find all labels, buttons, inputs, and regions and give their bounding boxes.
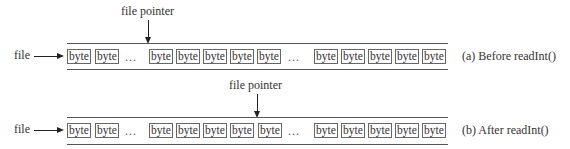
byte-cell: byte: [203, 123, 227, 138]
byte-cell: byte: [230, 123, 254, 138]
ellipsis: ...: [288, 50, 300, 65]
ellipsis: ...: [288, 124, 300, 139]
file-pointer-arrow-shaft: [257, 94, 258, 111]
arrow-right-icon: [57, 127, 64, 133]
byte-cell: byte: [149, 123, 173, 138]
arrow-right-icon: [57, 53, 64, 59]
byte-cell: byte: [368, 123, 392, 138]
byte-cell: byte: [314, 123, 338, 138]
byte-cell: byte: [341, 49, 365, 64]
caption-before-readint: (a) Before readInt(): [462, 49, 556, 64]
byte-cell: byte: [67, 123, 91, 138]
file-label: file: [14, 48, 30, 63]
file-arrow-shaft: [34, 130, 57, 131]
byte-cell: byte: [95, 123, 119, 138]
byte-cell: byte: [341, 123, 365, 138]
file-arrow-shaft: [34, 56, 57, 57]
ellipsis: ...: [125, 50, 137, 65]
byte-cell: byte: [176, 123, 200, 138]
file-pointer-label: file pointer: [121, 4, 174, 19]
byte-cell: byte: [422, 123, 446, 138]
stream-bottom-border: [67, 69, 448, 70]
byte-cell: byte: [422, 49, 446, 64]
byte-cell: byte: [95, 49, 119, 64]
byte-cell: byte: [176, 49, 200, 64]
stream-top-border: [67, 43, 448, 44]
byte-cell: byte: [67, 49, 91, 64]
byte-cell: byte: [230, 49, 254, 64]
byte-cell: byte: [395, 49, 419, 64]
stream-bottom-border: [67, 144, 448, 145]
file-label: file: [14, 122, 30, 137]
file-pointer-arrow-shaft: [148, 20, 149, 37]
ellipsis: ...: [125, 124, 137, 139]
byte-cell: byte: [314, 49, 338, 64]
byte-cell: byte: [257, 49, 281, 64]
file-pointer-label: file pointer: [229, 78, 282, 93]
caption-after-readint: (b) After readInt(): [462, 123, 549, 138]
byte-cell: byte: [258, 123, 282, 138]
byte-cell: byte: [203, 49, 227, 64]
stream-top-border: [67, 117, 448, 118]
byte-cell: byte: [368, 49, 392, 64]
byte-cell: byte: [395, 123, 419, 138]
byte-cell: byte: [149, 49, 173, 64]
